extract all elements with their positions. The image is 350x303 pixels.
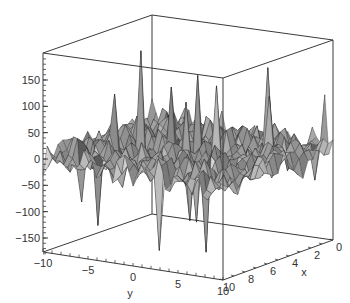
- y-tick-label: 0: [130, 271, 136, 283]
- y-tick-label: −5: [82, 264, 95, 276]
- x-tick-label: 2: [314, 249, 320, 261]
- x-tick-label: 0: [336, 241, 342, 253]
- z-tick-label: −50: [21, 179, 40, 191]
- x-axis-ticks: 0246810: [220, 239, 342, 293]
- x-tick-label: 6: [270, 265, 276, 277]
- surface-mesh: [43, 51, 333, 252]
- z-tick-label: 50: [28, 127, 40, 139]
- x-axis-label: x: [301, 266, 307, 278]
- x-tick-label: 10: [223, 281, 235, 293]
- z-tick-label: −100: [15, 206, 40, 218]
- x-tick-label: 8: [248, 273, 254, 285]
- x-tick-label: 4: [292, 257, 298, 269]
- surface-plot: 150100500−50−100−150 −10−50510 0246810 y…: [0, 0, 350, 303]
- y-tick-label: 5: [175, 278, 181, 290]
- y-tick-label: −10: [34, 257, 53, 269]
- z-tick-label: 0: [34, 153, 40, 165]
- y-axis-label: y: [127, 287, 133, 299]
- z-tick-label: −150: [15, 232, 40, 244]
- z-tick-label: 100: [22, 100, 40, 112]
- z-tick-label: 150: [22, 74, 40, 86]
